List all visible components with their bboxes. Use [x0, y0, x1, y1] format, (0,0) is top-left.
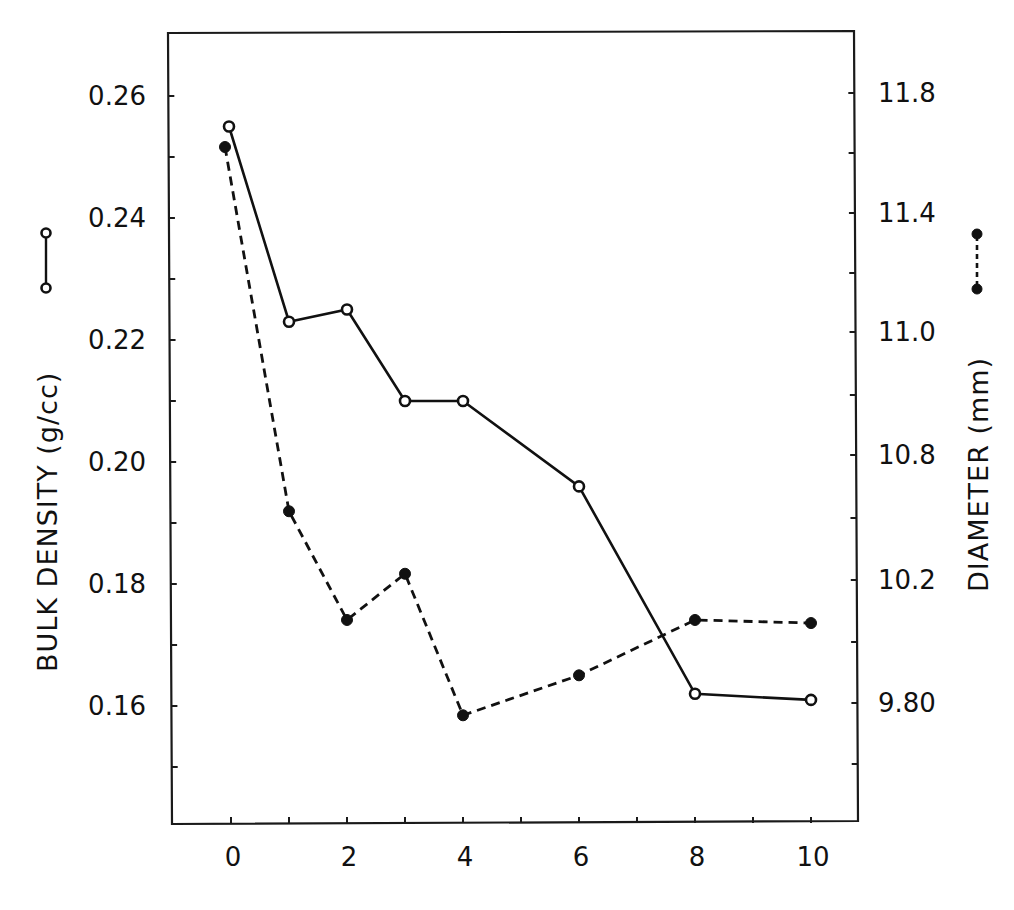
- right-tick-label: 11.0: [878, 317, 936, 347]
- right-axis-tick-labels: 11.811.411.010.810.29.80: [878, 78, 936, 718]
- filled-circle-marker: [342, 614, 353, 625]
- open-circle-marker: [458, 396, 468, 406]
- left-tick-label: 0.18: [88, 569, 146, 599]
- x-axis-tick-labels: 0246810: [225, 842, 830, 872]
- x-tick-label: 8: [689, 842, 706, 872]
- filled-circle-marker: [806, 618, 817, 629]
- x-tick-label: 4: [457, 842, 474, 872]
- bulk-density-series: [224, 122, 816, 705]
- open-circle-marker: [574, 481, 584, 491]
- filled-circle-marker: [574, 670, 585, 681]
- left-axis-title: BULK DENSITY (g/cc): [32, 372, 63, 672]
- open-circle-marker: [284, 317, 294, 327]
- plot-frame: [168, 31, 858, 824]
- x-tick-label: 0: [225, 842, 242, 872]
- open-circle-marker: [806, 695, 816, 705]
- x-tick-label: 2: [341, 842, 358, 872]
- filled-circle-marker: [458, 710, 469, 721]
- left-tick-label: 0.20: [88, 447, 146, 477]
- diameter-series-line: [225, 147, 811, 715]
- legend-filled-circle-dashed-icon: [972, 229, 982, 294]
- left-tick-label: 0.16: [88, 691, 146, 721]
- left-tick-label: 0.22: [88, 325, 146, 355]
- left-tick-label: 0.26: [88, 81, 146, 111]
- left-tick-label: 0.24: [88, 203, 146, 233]
- right-axis-title-group: DIAMETER (mm): [963, 229, 994, 592]
- open-circle-marker: [400, 396, 410, 406]
- right-tick-label: 11.4: [878, 198, 936, 228]
- filled-circle-marker: [220, 142, 231, 153]
- x-tick-label: 6: [573, 842, 590, 872]
- x-tick-label: 10: [796, 842, 829, 872]
- open-circle-marker: [690, 689, 700, 699]
- left-axis-title-group: BULK DENSITY (g/cc): [32, 229, 63, 673]
- filled-circle-marker: [690, 614, 701, 625]
- right-tick-label: 11.8: [878, 78, 936, 108]
- filled-circle-marker: [284, 506, 295, 517]
- dual-axis-line-chart: 0246810 0.260.240.220.200.180.16 11.811.…: [0, 0, 1014, 910]
- right-axis-title: DIAMETER (mm): [963, 357, 994, 592]
- right-tick-label: 9.80: [878, 688, 936, 718]
- right-tick-label: 10.8: [878, 440, 936, 470]
- open-circle-marker: [342, 305, 352, 315]
- left-axis-tick-labels: 0.260.240.220.200.180.16: [88, 81, 146, 721]
- open-circle-marker: [224, 122, 234, 132]
- right-tick-label: 10.2: [878, 565, 936, 595]
- filled-circle-marker: [400, 568, 411, 579]
- density-series-line: [229, 127, 811, 700]
- legend-open-circle-solid-icon: [42, 229, 51, 293]
- diameter-series: [220, 142, 817, 721]
- chart-figure: 0246810 0.260.240.220.200.180.16 11.811.…: [0, 0, 1014, 910]
